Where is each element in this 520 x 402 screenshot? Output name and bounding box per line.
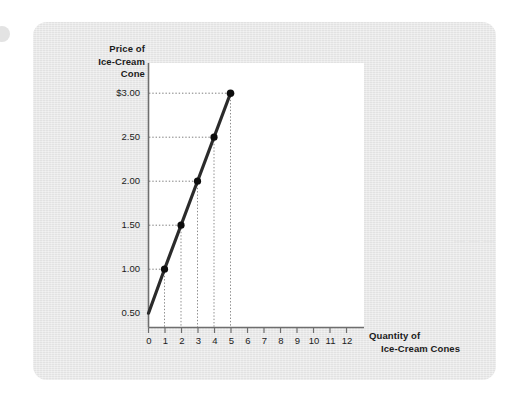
data-point-2 <box>177 222 184 229</box>
vertical-guide-lines <box>165 93 231 327</box>
x-axis-ticks <box>149 328 347 334</box>
supply-curve-line <box>149 93 231 313</box>
horizontal-guide-lines <box>149 93 231 269</box>
data-point-5 <box>227 89 235 97</box>
page-edge-dot <box>0 26 10 42</box>
data-point-3 <box>194 178 201 185</box>
data-point-1 <box>161 266 168 273</box>
supply-curve-chart: Price of Ice-Cream Cone Quantity of Ice-… <box>33 22 496 380</box>
data-point-4 <box>210 134 217 141</box>
chart-svg <box>33 22 496 380</box>
screenshot-root: — — — Price of Ice-Cream Cone Quantity o… <box>0 0 520 402</box>
